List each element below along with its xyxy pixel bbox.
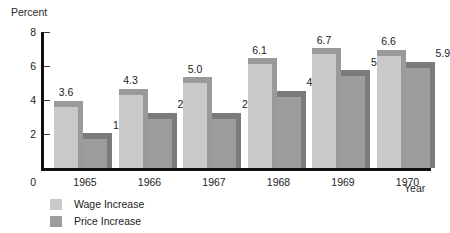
bar-price-increase-1967 (212, 119, 236, 168)
bar-side-shadow (430, 68, 435, 168)
bar-price-increase-1968 (277, 97, 301, 168)
bar-group: 6.65.9 (377, 32, 439, 168)
x-category-label-1970: 1970 (367, 176, 449, 188)
y-tick-label-8: 8 (18, 27, 36, 38)
bar-group: 6.75.4 (312, 32, 374, 168)
bar-side-shadow (107, 139, 112, 168)
legend-swatch (50, 199, 62, 210)
bar-face (377, 56, 401, 168)
bar-face (54, 107, 78, 168)
bar-face (277, 97, 301, 168)
bar-face (183, 83, 207, 168)
bar-value-label: 6.7 (306, 35, 342, 46)
bar-value-label: 5.9 (436, 48, 450, 59)
bar-side-shadow (236, 119, 241, 168)
bar-side-shadow (172, 119, 177, 168)
bar-face (148, 119, 172, 168)
bar-group: 6.14.2 (248, 32, 310, 168)
bar-wage-increase-1968 (248, 64, 272, 168)
y-tick-label-4: 4 (18, 95, 36, 106)
bar-wage-increase-1969 (312, 54, 336, 168)
bar-price-increase-1965 (83, 139, 107, 168)
bar-wage-increase-1967 (183, 83, 207, 168)
bar-value-label: 5.0 (177, 64, 213, 75)
bar-group: 5.02.9 (183, 32, 245, 168)
bar-face (83, 139, 107, 168)
legend-label: Wage Increase (74, 198, 144, 210)
bar-face (212, 119, 236, 168)
bar-value-label: 6.1 (242, 45, 278, 56)
bar-side-shadow (365, 76, 370, 168)
bar-price-increase-1969 (341, 76, 365, 168)
bar-face (406, 68, 430, 168)
bar-value-label: 6.6 (371, 36, 407, 47)
bar-wage-increase-1965 (54, 107, 78, 168)
bar-value-label: 4.3 (113, 75, 149, 86)
y-tick-label-2: 2 (18, 129, 36, 140)
y-axis-title: Percent (11, 6, 47, 18)
legend-label: Price Increase (74, 215, 141, 227)
bar-value-label: 3.6 (48, 87, 84, 98)
bar-face (312, 54, 336, 168)
bar-group: 4.32.9 (119, 32, 181, 168)
y-tick-label-6: 6 (18, 61, 36, 72)
x-axis-line (41, 168, 431, 171)
bar-face (248, 64, 272, 168)
bar-face (119, 95, 143, 168)
bar-face (341, 76, 365, 168)
bar-group: 3.61.7 (54, 32, 116, 168)
bar-wage-increase-1966 (119, 95, 143, 168)
bar-price-increase-1970 (406, 68, 430, 168)
bar-price-increase-1966 (148, 119, 172, 168)
y-axis-zero-label: 0 (18, 176, 36, 188)
legend-swatch (50, 216, 62, 227)
bar-wage-increase-1970 (377, 56, 401, 168)
plot-area: 3.61.74.32.95.02.96.14.26.75.46.65.9 (44, 32, 431, 168)
bar-side-shadow (301, 97, 306, 168)
